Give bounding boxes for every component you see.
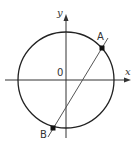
x-axis-label: x [125,66,131,77]
origin-label: 0 [57,67,63,78]
coordinate-diagram: x y 0 A B [0,0,136,147]
line-through-a-b [48,38,108,137]
point-a-label: A [97,31,104,42]
point-b: B [40,126,56,141]
y-axis-label: y [56,7,63,18]
point-b-label: B [40,129,47,140]
x-axis-arrow-icon [124,78,131,83]
point-a: A [97,31,105,51]
y-axis-arrow-icon [64,14,69,21]
point-a-marker-icon [100,46,105,51]
point-b-marker-icon [51,126,56,131]
